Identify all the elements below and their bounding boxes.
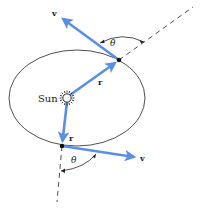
lower-radius-vector [63,102,68,141]
orbit-diagram: Sun v r θ r v θ [0,0,201,214]
lower-velocity-label: v [139,153,145,163]
sun-label: Sun [38,93,58,104]
lower-angle-arc-head-left [61,169,65,174]
lower-angle-arc [61,154,96,171]
lower-radius-extension-dashed [57,146,62,202]
diagram-svg: Sun v r θ r v θ [0,0,201,214]
upper-velocity-label: v [51,8,57,18]
upper-angle-label: θ [110,38,116,48]
lower-radius-label: r [69,133,74,143]
upper-radius-extension-dashed [119,7,193,60]
upper-angle-arc [100,37,144,43]
lower-orbit-point [60,144,65,149]
lower-angle-label: θ [71,155,77,165]
upper-radius-vector [70,63,115,95]
orbit-ellipse [9,50,145,146]
upper-angle-arc-head-left [100,40,105,44]
upper-radius-label: r [98,77,103,87]
upper-orbit-point [117,58,122,63]
